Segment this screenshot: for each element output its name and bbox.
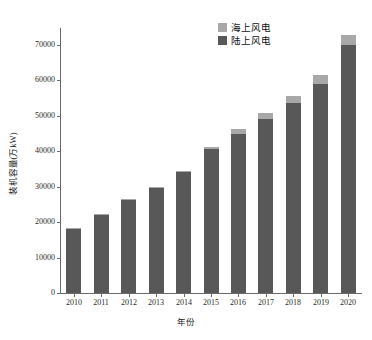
bar-segment-onshore[interactable] bbox=[176, 172, 191, 293]
bar-segment-onshore[interactable] bbox=[149, 188, 164, 293]
y-tick-label: 10000 bbox=[35, 254, 55, 262]
chart-legend: 海上风电陆上风电 bbox=[218, 22, 271, 46]
x-tick-mark bbox=[184, 294, 185, 297]
bar-segment-onshore[interactable] bbox=[341, 45, 356, 293]
legend-swatch bbox=[218, 36, 227, 45]
y-tick-label: 50000 bbox=[35, 112, 55, 120]
y-tick-label: 60000 bbox=[35, 76, 55, 84]
x-tick-mark bbox=[129, 294, 130, 297]
y-tick-label: 0 bbox=[51, 289, 55, 297]
bar-segment-offshore[interactable] bbox=[313, 75, 328, 84]
bar-segment-onshore[interactable] bbox=[94, 215, 109, 293]
legend-swatch bbox=[218, 23, 227, 32]
y-tick-mark bbox=[57, 80, 60, 81]
y-tick-label: 40000 bbox=[35, 147, 55, 155]
bar-segment-offshore[interactable] bbox=[94, 214, 109, 215]
x-tick-mark bbox=[348, 294, 349, 297]
bar-group[interactable] bbox=[94, 214, 109, 293]
bar-segment-onshore[interactable] bbox=[204, 149, 219, 293]
bar-segment-offshore[interactable] bbox=[149, 187, 164, 188]
bar-group[interactable] bbox=[204, 147, 219, 293]
x-tick-label: 2012 bbox=[114, 299, 144, 307]
bar-segment-offshore[interactable] bbox=[341, 35, 356, 45]
bar-segment-onshore[interactable] bbox=[258, 119, 273, 293]
legend-item[interactable]: 海上风电 bbox=[218, 22, 271, 33]
x-tick-label: 2019 bbox=[306, 299, 336, 307]
x-tick-mark bbox=[321, 294, 322, 297]
bar-group[interactable] bbox=[121, 199, 136, 293]
bar-group[interactable] bbox=[66, 228, 81, 293]
y-tick-mark bbox=[57, 151, 60, 152]
x-axis-title: 年份 bbox=[0, 315, 372, 327]
bar-segment-offshore[interactable] bbox=[231, 129, 246, 134]
y-tick-mark bbox=[57, 258, 60, 259]
bar-segment-offshore[interactable] bbox=[121, 199, 136, 200]
bar-segment-offshore[interactable] bbox=[204, 147, 219, 149]
legend-label: 海上风电 bbox=[231, 23, 271, 33]
bar-segment-onshore[interactable] bbox=[286, 103, 301, 293]
bar-segment-onshore[interactable] bbox=[121, 200, 136, 293]
bar-segment-offshore[interactable] bbox=[286, 96, 301, 103]
y-tick-mark bbox=[57, 116, 60, 117]
bar-group[interactable] bbox=[258, 113, 273, 293]
bar-group[interactable] bbox=[231, 129, 246, 293]
y-tick-mark bbox=[57, 45, 60, 46]
x-tick-label: 2013 bbox=[141, 299, 171, 307]
x-tick-label: 2018 bbox=[278, 299, 308, 307]
y-tick-label: 30000 bbox=[35, 183, 55, 191]
x-tick-label: 2016 bbox=[223, 299, 253, 307]
bar-group[interactable] bbox=[176, 171, 191, 293]
y-tick-label: 20000 bbox=[35, 218, 55, 226]
x-tick-label: 2010 bbox=[59, 299, 89, 307]
bar-segment-offshore[interactable] bbox=[176, 171, 191, 172]
y-axis-line bbox=[60, 28, 61, 294]
bar-segment-onshore[interactable] bbox=[231, 134, 246, 293]
bar-group[interactable] bbox=[313, 75, 328, 293]
bar-segment-offshore[interactable] bbox=[258, 113, 273, 119]
x-tick-mark bbox=[266, 294, 267, 297]
y-tick-mark bbox=[57, 293, 60, 294]
y-tick-mark bbox=[57, 187, 60, 188]
bar-segment-offshore[interactable] bbox=[66, 228, 81, 229]
bar-segment-onshore[interactable] bbox=[313, 84, 328, 293]
x-tick-mark bbox=[211, 294, 212, 297]
bar-group[interactable] bbox=[286, 96, 301, 293]
x-tick-label: 2020 bbox=[333, 299, 363, 307]
y-tick-mark bbox=[57, 222, 60, 223]
wind-capacity-stacked-bar-chart: 010000200003000040000500006000070000 201… bbox=[0, 0, 372, 340]
x-tick-label: 2015 bbox=[196, 299, 226, 307]
x-tick-mark bbox=[101, 294, 102, 297]
bar-segment-onshore[interactable] bbox=[66, 229, 81, 293]
bar-group[interactable] bbox=[149, 187, 164, 293]
x-tick-label: 2017 bbox=[251, 299, 281, 307]
bar-group[interactable] bbox=[341, 35, 356, 293]
y-axis-title: 装机容量(万kW) bbox=[6, 114, 18, 214]
y-tick-label: 70000 bbox=[35, 41, 55, 49]
x-tick-mark bbox=[293, 294, 294, 297]
x-tick-mark bbox=[238, 294, 239, 297]
x-tick-label: 2011 bbox=[86, 299, 116, 307]
legend-label: 陆上风电 bbox=[231, 36, 271, 46]
x-tick-mark bbox=[74, 294, 75, 297]
x-tick-mark bbox=[156, 294, 157, 297]
legend-item[interactable]: 陆上风电 bbox=[218, 35, 271, 46]
x-tick-label: 2014 bbox=[169, 299, 199, 307]
